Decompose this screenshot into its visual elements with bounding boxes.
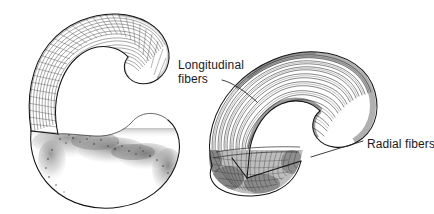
figure-container: Longitudinal fibers Radial fibers [0, 0, 434, 214]
anatomical-illustration-svg: Longitudinal fibers Radial fibers [0, 0, 434, 214]
left-panel-figure [20, 5, 190, 214]
radial-fibers-label: Radial fibers [367, 137, 434, 151]
longitudinal-fibers-label-line1: Longitudinal [178, 58, 244, 72]
longitudinal-fibers-label-line2: fibers [178, 72, 208, 86]
